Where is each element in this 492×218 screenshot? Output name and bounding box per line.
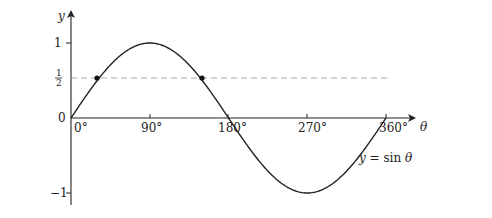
y-label-0: 0 [58,111,66,125]
y-label-1: 1 [54,36,62,50]
x-axis-label: θ [420,120,428,134]
curve-label-theta: θ [405,151,413,165]
y-label-half-num: 1 [56,68,62,78]
x-label-180: 180° [218,121,247,135]
curve-label: y = sin θ [358,151,413,165]
y-axis-label: y [57,9,65,23]
y-label-half-den: 2 [56,78,62,88]
y-label-minus1: −1 [50,186,68,200]
curve-label-eq: = sin [366,151,405,165]
intersection-point-150 [199,75,204,80]
x-label-360: 360° [379,121,408,135]
x-label-90: 90° [141,121,162,135]
sine-chart: y θ 1 1 2 0 −1 0° 90° 180° 270° 360° y =… [0,0,492,218]
x-label-270: 270° [298,121,327,135]
x-label-0: 0° [74,121,88,135]
intersection-point-30 [94,75,99,80]
